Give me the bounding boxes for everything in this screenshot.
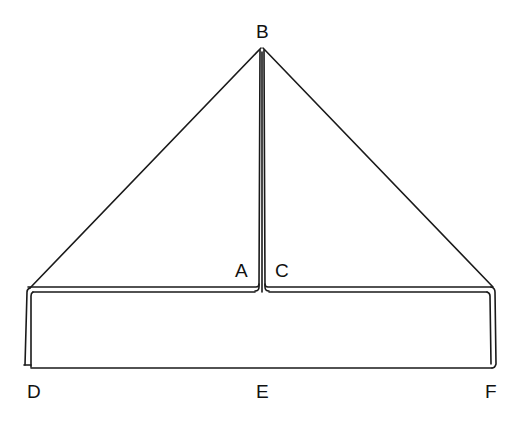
label-c: C bbox=[275, 260, 289, 281]
left-side-outer bbox=[25, 288, 30, 365]
top-edge-right-outer bbox=[265, 284, 491, 287]
left-side-inner bbox=[31, 292, 33, 367]
right-side-inner bbox=[487, 292, 491, 364]
right-side-outer bbox=[491, 287, 496, 368]
label-b: B bbox=[256, 21, 269, 42]
fold-line-left bbox=[255, 50, 260, 291]
label-f: F bbox=[485, 381, 497, 402]
edge-b-left bbox=[30, 48, 261, 288]
top-edge-left-outer bbox=[28, 284, 259, 287]
geometry-diagram: B A C D E F bbox=[0, 0, 515, 423]
label-e: E bbox=[256, 381, 269, 402]
label-d: D bbox=[27, 381, 41, 402]
label-a: A bbox=[235, 260, 248, 281]
edge-b-right bbox=[263, 48, 493, 287]
fold-line-right bbox=[264, 50, 269, 291]
